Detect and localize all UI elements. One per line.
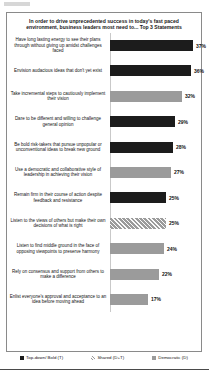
bar-row: Rely on consensus and support from other… [9, 261, 199, 286]
bar-value-label: 25% [169, 220, 179, 226]
bar-category-label: Be bold risk-takers that pursue unpopula… [9, 142, 110, 153]
bar-row: Listen to find middle ground in the face… [9, 236, 199, 261]
bar-democratic[interactable] [110, 243, 164, 254]
bar-zone: 28% [110, 134, 199, 159]
legend-label: Top-down/ Bold (T) [26, 355, 63, 360]
bar-row: Be bold risk-takers that pursue unpopula… [9, 134, 199, 159]
bar-category-label: Listen to find middle ground in the face… [9, 243, 110, 254]
bar-topdown[interactable] [110, 116, 175, 127]
bar-topdown[interactable] [110, 65, 191, 76]
bar-value-label: 32% [185, 93, 195, 99]
bar-category-label: Use a democratic and collaborative style… [9, 167, 110, 178]
bar-topdown[interactable] [110, 142, 173, 153]
bar-value-label: 17% [151, 296, 161, 302]
bar-topdown[interactable] [110, 192, 166, 203]
bar-zone: 22% [110, 261, 199, 286]
bar-value-label: 29% [178, 119, 188, 125]
bar-zone: 17% [110, 287, 199, 312]
bar-row: Enlist everyone's approval and acceptanc… [9, 287, 199, 312]
bar-value-label: 25% [169, 195, 179, 201]
bar-row: Dare to be different and willing to chal… [9, 109, 199, 134]
bar-category-label: Have long lasting energy to see their pl… [9, 37, 110, 54]
bar-category-label: Remain firm in their course of action de… [9, 192, 110, 203]
chart-legend: Top-down/ Bold (T) Shared (D+T) Democrat… [6, 355, 202, 360]
bar-topdown[interactable] [110, 40, 193, 51]
plot-area: Have long lasting energy to see their pl… [9, 33, 199, 312]
bar-row: Use a democratic and collaborative style… [9, 160, 199, 185]
bar-value-label: 24% [167, 246, 177, 252]
bar-category-label: Envision audacious ideas that don't yet … [9, 68, 110, 74]
bar-democratic[interactable] [110, 91, 182, 102]
chart-container: In order to drive unprecedented success … [6, 12, 202, 352]
bar-category-label: Dare to be different and willing to chal… [9, 116, 110, 127]
page-bottom-rule [0, 369, 209, 370]
bar-zone: 25% [110, 185, 199, 210]
bar-democratic[interactable] [110, 294, 148, 305]
bar-value-label: 28% [176, 144, 186, 150]
legend-item-democratic[interactable]: Democratic (D) [152, 355, 188, 360]
bar-value-label: 27% [174, 169, 184, 175]
bar-row: Have long lasting energy to see their pl… [9, 33, 199, 58]
bar-democratic[interactable] [110, 167, 171, 178]
bar-row: Remain firm in their course of action de… [9, 185, 199, 210]
bar-value-label: 36% [194, 68, 204, 74]
page-artifact-top [4, 2, 30, 6]
bar-zone: 37% [110, 33, 206, 58]
bar-category-label: Rely on consensus and support from other… [9, 269, 110, 280]
bar-zone: 27% [110, 160, 199, 185]
bar-category-label: Listen to the views of others but make t… [9, 218, 110, 229]
bar-zone: 32% [110, 84, 199, 109]
chart-title: In order to drive unprecedented success … [13, 18, 195, 31]
bar-category-label: Take incremental steps to cautiously imp… [9, 91, 110, 102]
bar-shared[interactable] [110, 218, 166, 229]
bar-value-label: 37% [196, 43, 206, 49]
bar-row: Take incremental steps to cautiously imp… [9, 84, 199, 109]
bar-democratic[interactable] [110, 269, 159, 280]
legend-label: Shared (D+T) [97, 355, 124, 360]
legend-swatch-icon [20, 356, 24, 360]
legend-label: Democratic (D) [158, 355, 188, 360]
bar-row: Envision audacious ideas that don't yet … [9, 58, 199, 83]
bar-zone: 25% [110, 211, 199, 236]
bar-row: Listen to the views of others but make t… [9, 211, 199, 236]
bar-category-label: Enlist everyone's approval and acceptanc… [9, 294, 110, 305]
legend-swatch-icon [152, 356, 156, 360]
bar-zone: 24% [110, 236, 199, 261]
legend-swatch-icon [91, 356, 95, 360]
legend-item-shared[interactable]: Shared (D+T) [91, 355, 124, 360]
bar-value-label: 22% [162, 271, 172, 277]
bar-zone: 29% [110, 109, 199, 134]
legend-item-topdown[interactable]: Top-down/ Bold (T) [20, 355, 63, 360]
bar-zone: 36% [110, 58, 204, 83]
